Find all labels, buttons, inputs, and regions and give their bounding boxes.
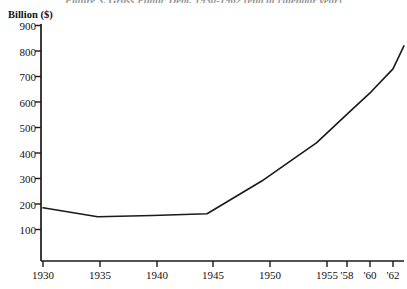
data-series-line [43,46,404,217]
figure-container: Figure 3. Gross Public Debt, 1930-1962 (… [0,0,407,289]
chart-plot-area [0,0,407,289]
x-axis-ticks [43,261,393,267]
y-axis-ticks [35,26,41,230]
